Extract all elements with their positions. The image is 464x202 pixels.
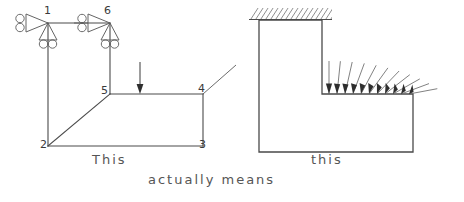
left-diagram-group: 1 6 5 4 2 3 [16, 4, 236, 151]
node-label-1: 1 [44, 4, 51, 17]
load-arrow-head-icon [342, 83, 348, 94]
node-label-4: 4 [198, 82, 205, 95]
roller-circle-icon [110, 40, 118, 48]
roller-circle-icon [78, 14, 86, 22]
load-arrow-head-icon [360, 83, 366, 94]
node-label-6: 6 [104, 4, 111, 17]
figure-root: 1 6 5 4 2 3 [0, 0, 464, 202]
roller-circle-icon [39, 40, 47, 48]
roller-circle-icon [101, 40, 109, 48]
load-arrow-head-icon [326, 84, 332, 95]
roller-circle-icon [16, 23, 24, 31]
load-arrow-head-icon [409, 84, 414, 94]
caption-this-left: This [92, 152, 127, 167]
frame-members [48, 23, 203, 146]
load-arrow-head-icon [334, 84, 340, 94]
node-label-3: 3 [199, 138, 206, 151]
node-label-5: 5 [101, 84, 108, 97]
roller-circle-icon [16, 14, 24, 22]
load-arrow-3 [342, 62, 352, 94]
load-arrow-2 [334, 61, 340, 94]
leader-line-node-4 [203, 65, 236, 94]
load-arrow-1 [326, 61, 332, 94]
caption-this-right: this [311, 152, 343, 167]
load-arrow-head-icon [377, 83, 382, 94]
right-diagram-group [249, 5, 437, 152]
load-arrow-head-icon [137, 84, 144, 94]
roller-circle-icon [78, 23, 86, 31]
caption-actually-means: actually means [148, 172, 275, 187]
roller-circle-icon [48, 40, 56, 48]
member-2-5-diagonal [48, 94, 110, 146]
distributed-load-fan [326, 61, 437, 94]
load-arrow-10 [401, 84, 429, 94]
point-load-arrow [137, 62, 144, 94]
node-label-2: 2 [40, 138, 47, 151]
